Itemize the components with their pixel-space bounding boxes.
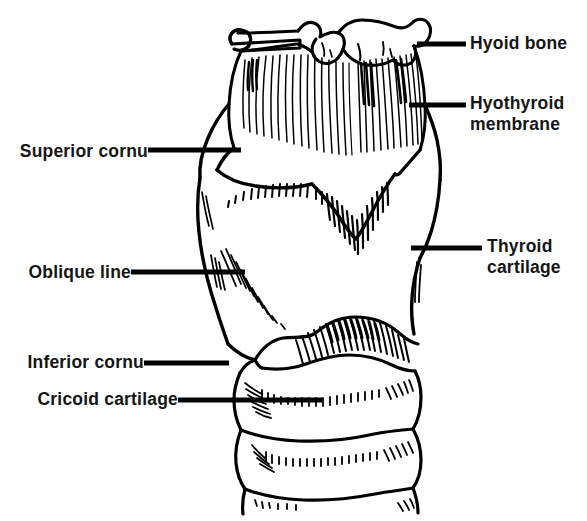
label-inferior-cornu: Inferior cornu	[16, 352, 144, 373]
label-thyroid-cartilage-line1: Thyroid	[487, 236, 553, 256]
label-hyothyroid-membrane-line1: Hyothyroid	[470, 93, 564, 113]
label-superior-cornu: Superior cornu	[16, 141, 148, 162]
label-cricoid-cartilage: Cricoid cartilage	[16, 389, 178, 410]
anatomical-figure: Hyoid bone Hyothyroid membrane Thyroid c…	[0, 0, 587, 521]
label-oblique-line: Oblique line	[16, 262, 131, 283]
label-hyothyroid-membrane: Hyothyroid membrane	[470, 93, 582, 135]
label-thyroid-cartilage-line2: cartilage	[487, 257, 561, 277]
label-thyroid-cartilage: Thyroid cartilage	[487, 236, 585, 278]
label-hyoid-bone: Hyoid bone	[470, 33, 567, 54]
label-hyothyroid-membrane-line2: membrane	[470, 114, 560, 134]
